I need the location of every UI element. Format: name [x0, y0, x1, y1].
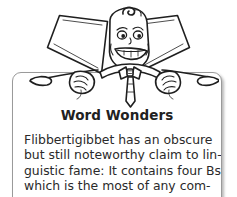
body-line: guistic fame: It contains four Bs, — [24, 163, 210, 178]
word-wonders-card: Word Wonders Flibbertigibbet has an obsc… — [12, 72, 222, 197]
body-line: Flibbertigibbet has an obscure — [24, 132, 210, 147]
page-root: Word Wonders Flibbertigibbet has an obsc… — [0, 0, 237, 197]
body-line: but still noteworthy claim to lin- — [24, 147, 210, 162]
body-line: which is the most of any com- — [24, 178, 210, 193]
card-body-text: Flibbertigibbet has an obscure but still… — [23, 132, 211, 193]
card-content: Word Wonders Flibbertigibbet has an obsc… — [13, 73, 221, 193]
card-title: Word Wonders — [23, 107, 211, 123]
